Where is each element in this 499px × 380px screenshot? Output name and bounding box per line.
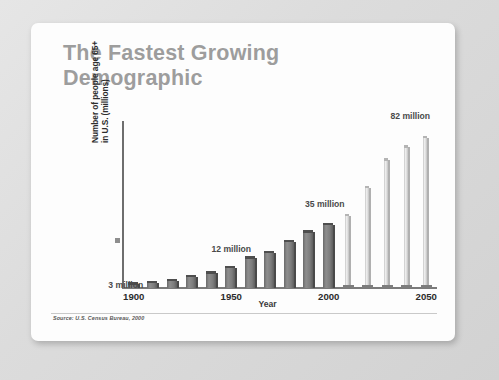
presentation-slide: The Fastest Growing Demographic Number o… [31, 23, 455, 341]
bar-2020 [365, 186, 371, 288]
bar-1910 [147, 281, 159, 288]
bar-base-2020 [362, 285, 373, 288]
bar-2030 [384, 158, 390, 288]
bar-2010 [345, 214, 351, 288]
bar-1920 [167, 279, 179, 288]
bar-chart: Number of people age 65+ in U.S. (millio… [49, 101, 441, 306]
x-tick-1900: 1900 [123, 291, 144, 302]
x-axis-label: Year [258, 299, 276, 309]
y-axis-label-wrap: Number of people age 65+ in U.S. (millio… [97, 131, 117, 271]
bar-base-2030 [382, 285, 393, 288]
bar-1930 [186, 275, 198, 288]
x-tick-2050: 2050 [416, 291, 437, 302]
bar-2040 [404, 145, 410, 288]
x-tick-1950: 1950 [221, 291, 242, 302]
slide-photo-background: The Fastest Growing Demographic Number o… [0, 0, 499, 380]
annotation-3-million: 3 million [108, 280, 143, 290]
source-divider [51, 313, 437, 314]
bar-1990 [303, 230, 315, 288]
bar-2000 [323, 223, 335, 288]
bar-base-2050 [421, 285, 432, 288]
plot-area [124, 121, 436, 288]
bar-1940 [206, 271, 218, 288]
bar-1970 [264, 251, 276, 288]
bar-base-2040 [401, 285, 412, 288]
bar-base-2010 [343, 285, 354, 288]
square-bullet-icon [115, 238, 120, 243]
bar-2050 [423, 136, 429, 288]
bar-1950 [225, 266, 237, 288]
annotation-82-million: 82 million [390, 111, 430, 121]
y-axis-label: Number of people age 65+ in U.S. (millio… [91, 11, 113, 143]
annotation-12-million: 12 million [211, 244, 251, 254]
x-tick-2000: 2000 [318, 291, 339, 302]
bar-1980 [284, 240, 296, 288]
bar-1960 [245, 256, 257, 288]
annotation-35-million: 35 million [305, 199, 345, 209]
source-note: Source: U.S. Census Bureau, 2000 [53, 315, 144, 321]
